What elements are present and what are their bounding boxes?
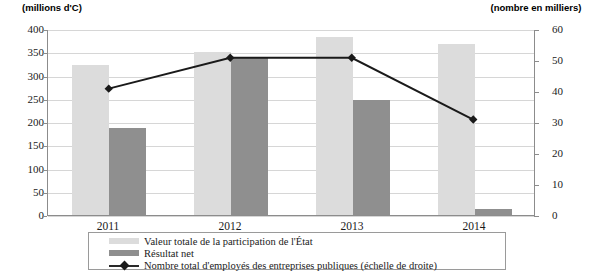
left-axis-tick-label: 350	[4, 47, 44, 58]
bar-swatch-dark-icon	[109, 250, 139, 256]
x-axis-label-2014: 2014	[439, 220, 509, 232]
legend-item-1[interactable]: Valeur totale de la participation de l'É…	[109, 236, 505, 248]
gridline	[48, 216, 534, 217]
legend-label: Nombre total d'employés des entreprises …	[144, 260, 437, 272]
left-axis-tick-label: 150	[4, 140, 44, 151]
left-axis-tick-label: 300	[4, 71, 44, 82]
legend-item-3[interactable]: Nombre total d'employés des entreprises …	[109, 260, 505, 272]
right-axis-tick-mark	[534, 216, 539, 217]
line-series-layer	[48, 30, 534, 215]
right-axis-tick-label: 30	[552, 117, 586, 128]
line-marker-swatch-icon	[109, 261, 139, 270]
left-axis-caption: (millions d'C)	[6, 2, 98, 13]
left-axis-tick-label: 100	[4, 164, 44, 175]
right-axis-tick-label: 40	[552, 86, 586, 97]
left-axis-tick-label: 50	[4, 187, 44, 198]
left-axis-tick-label: 400	[4, 24, 44, 35]
plot-area	[47, 30, 535, 216]
legend-label: Résultat net	[144, 248, 194, 260]
left-axis-tick-label: 250	[4, 94, 44, 105]
bar-swatch-light-icon	[109, 238, 139, 244]
right-axis-tick-label: 50	[552, 55, 586, 66]
x-axis-label-2011: 2011	[73, 220, 143, 232]
chart-container: (millions d'C) (nombre en milliers) 4003…	[0, 0, 589, 273]
line-marker-2011	[105, 84, 113, 92]
right-axis-tick-label: 60	[552, 24, 586, 35]
legend-label: Valeur totale de la participation de l'É…	[144, 236, 313, 248]
chart-legend: Valeur totale de la participation de l'É…	[88, 232, 506, 270]
x-axis-label-2012: 2012	[195, 220, 265, 232]
legend-item-2[interactable]: Résultat net	[109, 248, 505, 260]
left-axis-tick-label: 0	[4, 210, 44, 221]
right-axis-caption: (nombre en milliers)	[487, 2, 585, 13]
line-path	[109, 58, 473, 120]
right-axis-tick-label: 20	[552, 148, 586, 159]
legend-diamond-marker-icon	[120, 261, 130, 271]
line-marker-2013	[348, 54, 356, 62]
right-axis-tick-label: 0	[552, 210, 586, 221]
x-axis-label-2013: 2013	[317, 220, 387, 232]
right-axis-tick-label: 10	[552, 179, 586, 190]
line-marker-2012	[226, 54, 234, 62]
left-axis-tick-mark	[42, 216, 47, 217]
line-marker-2014	[469, 115, 477, 123]
left-axis-tick-label: 200	[4, 117, 44, 128]
